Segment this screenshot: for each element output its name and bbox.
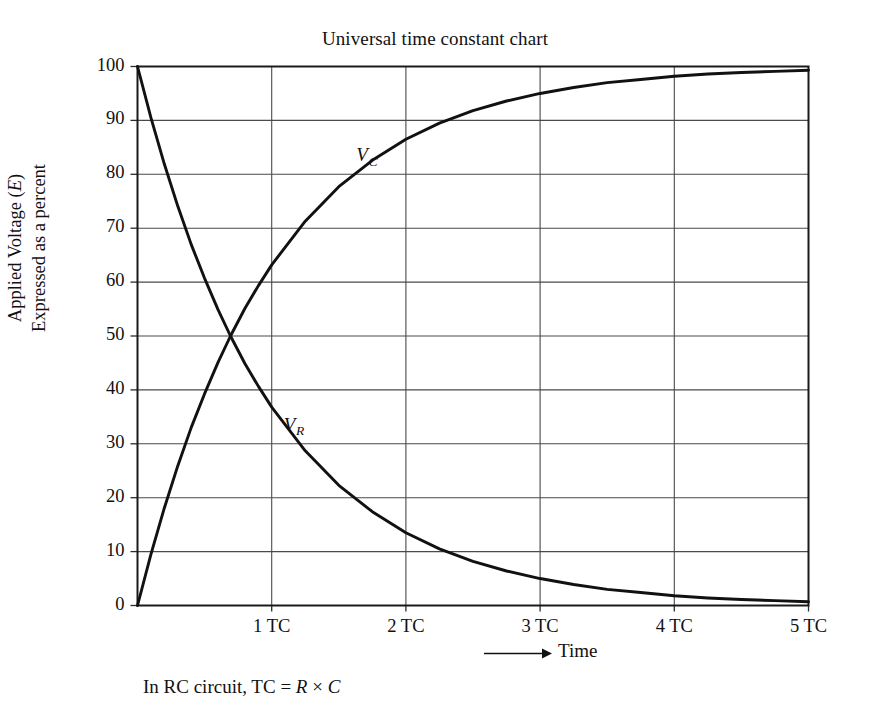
y-tick-label: 70 (79, 216, 125, 237)
y-tick-label: 80 (79, 162, 125, 183)
curve-label-symbol: V (356, 144, 368, 165)
y-tick-label: 20 (79, 486, 125, 507)
x-axis-title: Time (484, 640, 597, 662)
y-tick-label: 0 (79, 594, 125, 615)
footnote-italic-c: C (328, 676, 341, 697)
curve-VC (138, 70, 809, 605)
x-tick-label: 1 TC (232, 616, 312, 637)
y-tick-label: 60 (79, 270, 125, 291)
arrow-right-icon (484, 646, 552, 660)
x-tick-label: 2 TC (366, 616, 446, 637)
curve-label-VR: VR (284, 414, 304, 440)
x-axis-title-text: Time (558, 640, 597, 661)
y-tick-label: 100 (79, 55, 125, 76)
curve-label-subscript: C (368, 154, 378, 169)
curve-label-symbol: V (284, 414, 296, 435)
y-tick-label: 90 (79, 108, 125, 129)
y-tick-label: 30 (79, 432, 125, 453)
curve-label-VC: VC (356, 144, 377, 170)
curve-label-subscript: R (295, 423, 304, 438)
x-tick-label: 3 TC (500, 616, 580, 637)
footnote-italic-r: R (296, 676, 308, 697)
y-tick-label: 40 (79, 378, 125, 399)
y-tick-label: 10 (79, 540, 125, 561)
gridlines (138, 67, 809, 606)
x-tick-label: 5 TC (769, 616, 849, 637)
x-tick-label: 4 TC (634, 616, 714, 637)
plot-area (0, 0, 870, 717)
y-tick-label: 50 (79, 324, 125, 345)
footnote: In RC circuit, TC = R × C (143, 676, 340, 698)
universal-time-constant-figure: Universal time constant chart Applied Vo… (0, 0, 870, 717)
curve-VR (138, 67, 809, 602)
